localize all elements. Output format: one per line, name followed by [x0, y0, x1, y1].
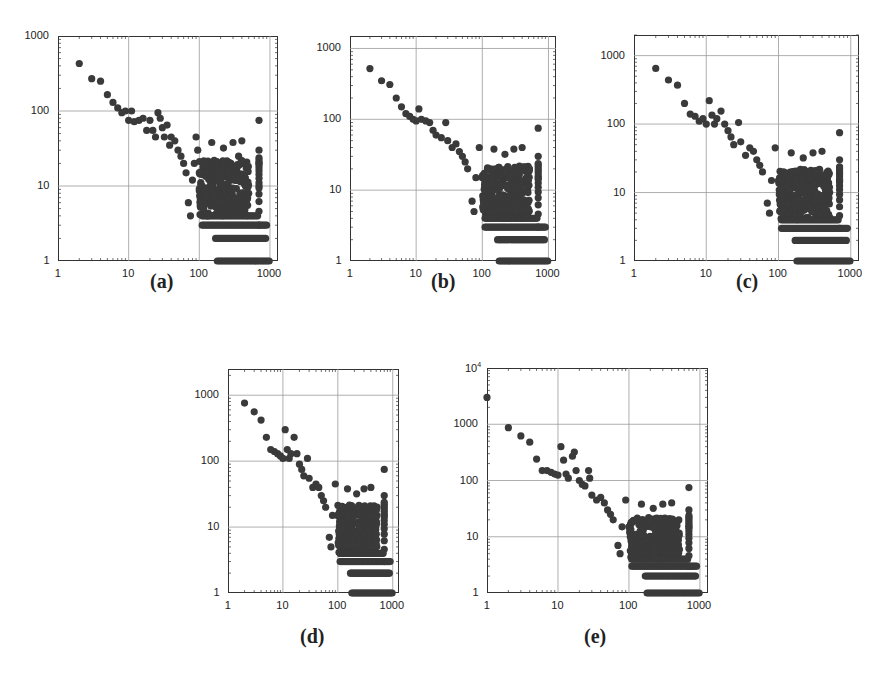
y-tick-label: 1000 [316, 41, 340, 53]
y-tick-label: 1000 [453, 417, 477, 429]
y-tick-label: 100 [460, 474, 478, 486]
x-tick-label: 1 [484, 599, 490, 611]
x-tick-label: 10 [551, 599, 563, 611]
x-tick-label: 100 [189, 267, 207, 279]
x-tick-label: 10 [122, 267, 134, 279]
x-tick-label: 10 [410, 267, 422, 279]
x-tick-label: 100 [769, 267, 787, 279]
y-tick-label: 1 [214, 586, 220, 598]
x-tick-label: 10 [276, 599, 288, 611]
x-tick-label: 1 [225, 599, 231, 611]
y-tick-label: 1 [44, 254, 50, 266]
caption-e: (e) [584, 625, 606, 648]
x-tick-label: 1000 [838, 267, 862, 279]
x-tick-label: 1 [55, 267, 61, 279]
y-tick-label: 1000 [24, 29, 48, 41]
x-tick-label: 1 [631, 267, 637, 279]
y-tick-label: 1 [620, 254, 626, 266]
x-tick-label: 1 [347, 267, 353, 279]
y-tick-label: 10 [329, 183, 341, 195]
x-tick-label: 1000 [687, 599, 711, 611]
y-tick-label: 1000 [600, 49, 624, 61]
x-tick-label: 10 [700, 267, 712, 279]
y-tick-label: 100 [31, 104, 49, 116]
y-tick-label: 100 [201, 454, 219, 466]
y-tick-label: 10 [207, 520, 219, 532]
y-tick-label: 1 [336, 254, 342, 266]
y-tick-label: 10 [37, 179, 49, 191]
x-tick-label: 1000 [257, 267, 281, 279]
y-tick-label: 1 [473, 586, 479, 598]
x-tick-label: 1000 [380, 599, 404, 611]
y-tick-label: 100 [323, 112, 341, 124]
y-tick-label: 1000 [194, 388, 218, 400]
y-tick-label: 104 [465, 361, 481, 374]
y-tick-label: 10 [466, 530, 478, 542]
y-tick-label: 10 [613, 186, 625, 198]
x-tick-label: 100 [328, 599, 346, 611]
scatter-e [0, 0, 886, 681]
x-tick-label: 100 [472, 267, 490, 279]
x-tick-label: 1000 [535, 267, 559, 279]
y-tick-label: 100 [607, 117, 625, 129]
x-tick-label: 100 [619, 599, 637, 611]
